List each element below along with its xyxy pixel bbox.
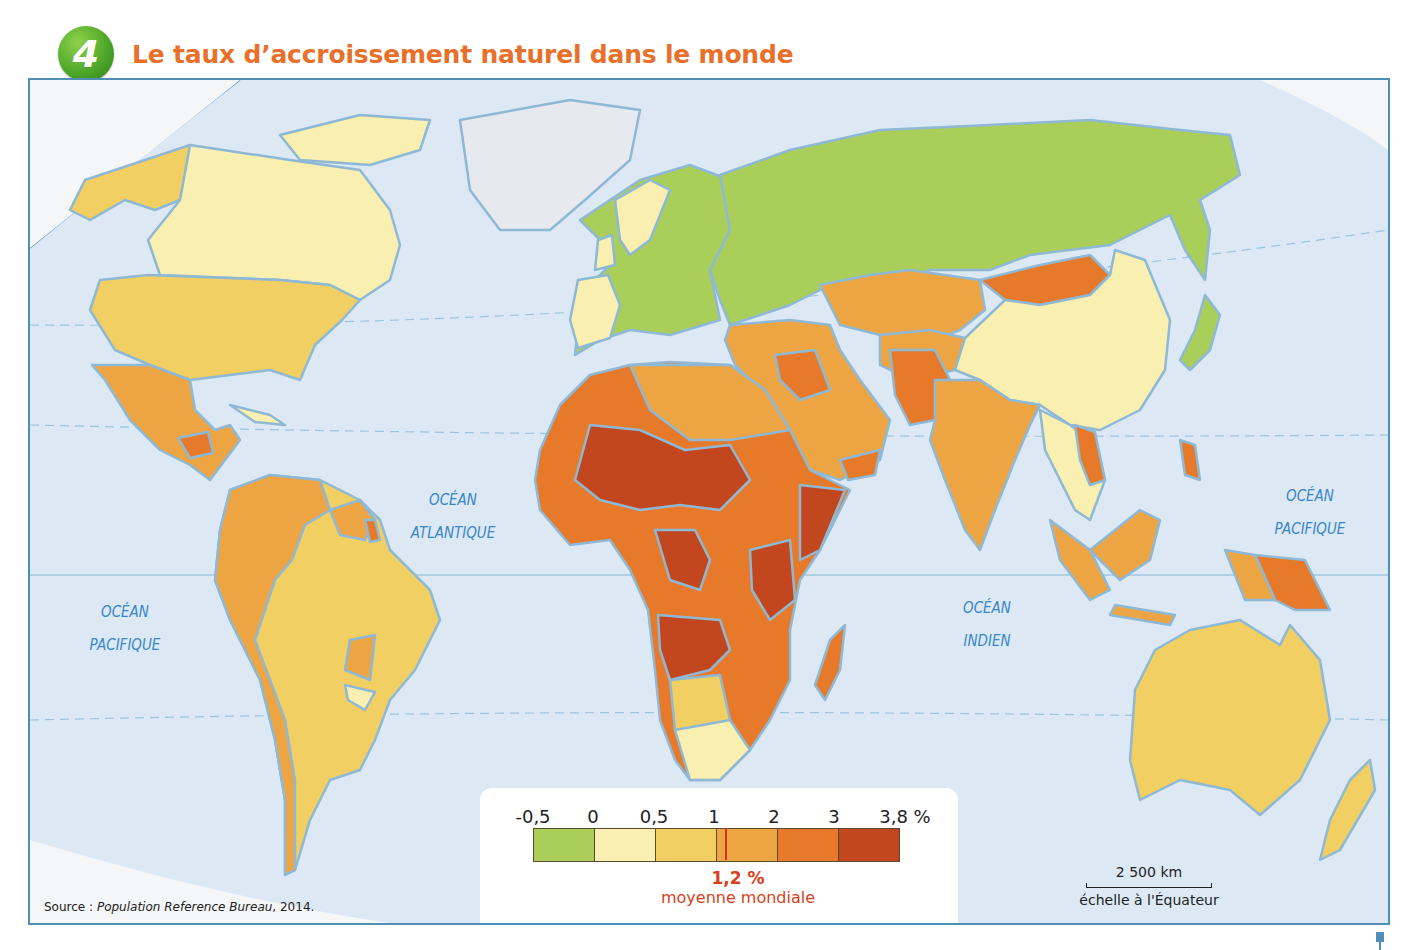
ocean-label-pacific-east: OCÉAN PACIFIQUE xyxy=(1255,480,1365,546)
source-name: Population Reference Bureau xyxy=(97,900,272,914)
australia xyxy=(1130,620,1330,815)
ocean-label-line2: PACIFIQUE xyxy=(70,629,180,662)
canadian-arctic-islands xyxy=(280,115,430,165)
legend-tick: 3,8 % xyxy=(879,806,930,827)
ocean-label-line1: OCÉAN xyxy=(932,592,1042,625)
land-outline-glow xyxy=(70,100,1375,875)
cuba xyxy=(230,405,285,425)
legend-tick: 0,5 xyxy=(640,806,669,827)
ocean-label-line1: OCÉAN xyxy=(398,484,508,517)
ocean-label-line1: OCÉAN xyxy=(70,596,180,629)
scale-caption: échelle à l'Équateur xyxy=(1078,892,1220,908)
legend-tick: 1 xyxy=(708,806,719,827)
legend-swatch-05-1 xyxy=(656,829,717,861)
map-legend: -0,5 0 0,5 1 2 3 3,8 % 1,2 % moyenne mon… xyxy=(480,788,958,923)
world-average-marker xyxy=(725,828,727,860)
mexico-central-america xyxy=(92,365,240,480)
page-corner-marker-icon xyxy=(1376,932,1384,942)
legend-tick: 0 xyxy=(587,806,598,827)
india xyxy=(930,380,1040,550)
source-citation: Source : Population Reference Bureau, 20… xyxy=(44,900,314,914)
scale-bar-line xyxy=(1086,883,1212,888)
new-zealand xyxy=(1320,760,1375,860)
ocean-label-indian: OCÉAN INDIEN xyxy=(932,592,1042,658)
legend-color-scale xyxy=(533,828,900,862)
scale-distance: 2 500 km xyxy=(1078,864,1220,880)
philippines xyxy=(1180,440,1200,480)
ocean-label-pacific-west: OCÉAN PACIFIQUE xyxy=(70,596,180,662)
world-average-label: moyenne mondiale xyxy=(480,888,958,907)
united-kingdom xyxy=(595,235,615,270)
source-prefix: Source : xyxy=(44,900,97,914)
world-average-value: 1,2 % xyxy=(480,868,958,888)
ocean-label-line2: ATLANTIQUE xyxy=(398,517,508,550)
java xyxy=(1110,605,1175,625)
madagascar xyxy=(815,625,845,700)
legend-tick: 3 xyxy=(828,806,839,827)
legend-swatch-3-38 xyxy=(839,829,899,861)
ocean-label-atlantic: OCÉAN ATLANTIQUE xyxy=(398,484,508,550)
world-map: OCÉAN PACIFIQUE OCÉAN ATLANTIQUE OCÉAN I… xyxy=(28,78,1390,925)
figure-number-badge: 4 xyxy=(58,26,114,82)
outside-projection-ne xyxy=(1260,80,1388,150)
figure-header: 4 Le taux d’accroissement naturel dans l… xyxy=(58,26,793,82)
legend-swatch-0-05 xyxy=(595,829,656,861)
somalia xyxy=(800,485,845,560)
japan xyxy=(1180,295,1220,370)
map-title: Le taux d’accroissement naturel dans le … xyxy=(132,40,793,69)
ocean-label-line1: OCÉAN xyxy=(1255,480,1365,513)
legend-tick: 2 xyxy=(768,806,779,827)
legend-swatch-neg05-0 xyxy=(534,829,595,861)
source-suffix: , 2014. xyxy=(272,900,314,914)
scale-bar: 2 500 km échelle à l'Équateur xyxy=(1078,864,1220,908)
legend-tick: -0,5 xyxy=(515,806,550,827)
legend-swatch-2-3 xyxy=(778,829,839,861)
ocean-label-line2: PACIFIQUE xyxy=(1255,513,1365,546)
ocean-label-line2: INDIEN xyxy=(932,625,1042,658)
